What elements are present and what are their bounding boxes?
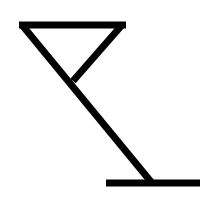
martini-glass-icon <box>0 0 202 199</box>
glass-left-side-stem <box>22 25 152 183</box>
glass-right-side <box>73 25 122 81</box>
figure-canvas: Martini glass symbol <box>0 0 202 199</box>
